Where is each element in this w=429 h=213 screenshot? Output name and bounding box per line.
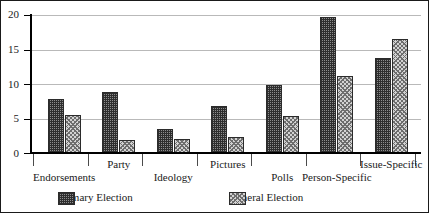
bar-party-primary <box>102 92 118 153</box>
legend-swatch-general-icon <box>229 192 246 205</box>
bar-person-specific-general <box>337 76 353 153</box>
bar-polls-primary <box>266 85 282 153</box>
plot-area <box>31 15 421 153</box>
legend-entry-primary: Primary Election <box>58 189 133 205</box>
bar-endorsements-primary <box>48 99 64 153</box>
category-label-issue-specific: Issue-Specific <box>342 158 429 170</box>
bar-endorsements-general <box>65 115 81 153</box>
category-label-endorsements: Endorsements <box>15 171 114 183</box>
bar-pictures-general <box>228 137 244 153</box>
bar-person-specific-primary <box>320 17 336 153</box>
bar-issue-specific-primary <box>375 58 391 153</box>
category-label-person-specific: Person-Specific <box>288 171 387 183</box>
y-tick-mark-15 <box>24 50 31 51</box>
category-label-pictures: Pictures <box>179 158 278 170</box>
y-tick-label-10: 10 <box>0 79 19 90</box>
gridline-20 <box>31 15 421 16</box>
y-tick-mark-5 <box>24 119 31 120</box>
bar-pictures-primary <box>211 106 227 153</box>
y-tick-mark-0 <box>24 153 31 154</box>
gridline-15 <box>31 50 421 51</box>
y-tick-label-5: 5 <box>0 113 19 124</box>
bar-ideology-general <box>174 139 190 153</box>
category-label-ideology: Ideology <box>124 171 223 183</box>
bar-issue-specific-general <box>392 39 408 153</box>
category-label-party: Party <box>70 158 169 170</box>
y-tick-label-0: 0 <box>0 148 19 159</box>
bar-ideology-primary <box>157 129 173 153</box>
x-separator-0 <box>33 154 34 166</box>
x-axis-line <box>30 152 421 154</box>
legend-entry-general: General Election <box>229 189 303 205</box>
legend-swatch-primary-icon <box>58 192 75 205</box>
y-tick-label-20: 20 <box>0 9 19 20</box>
y-tick-mark-20 <box>24 15 31 16</box>
x-separator-5 <box>306 154 307 166</box>
bar-polls-general <box>283 116 299 153</box>
chart-figure: 20 15 10 5 0 EndorsementsPartyIdeologyPi… <box>0 0 429 213</box>
chart-legend: Primary Election General Election <box>1 189 429 211</box>
gridline-10 <box>31 84 421 85</box>
y-tick-mark-10 <box>24 84 31 85</box>
y-tick-label-15: 15 <box>0 44 19 55</box>
